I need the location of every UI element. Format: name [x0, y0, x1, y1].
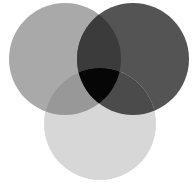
venn-diagram: [0, 0, 195, 185]
